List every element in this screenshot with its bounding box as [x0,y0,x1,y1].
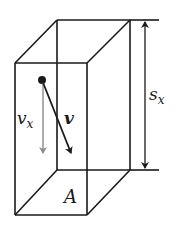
box-diagram: vx v sx A [0,0,178,240]
box-top-face [15,20,130,63]
height-label: sx [149,84,165,107]
velocity-component-label: vx [17,108,34,131]
velocity-label: v [64,108,75,128]
box-right-edges [87,20,130,215]
area-label: A [62,186,77,207]
